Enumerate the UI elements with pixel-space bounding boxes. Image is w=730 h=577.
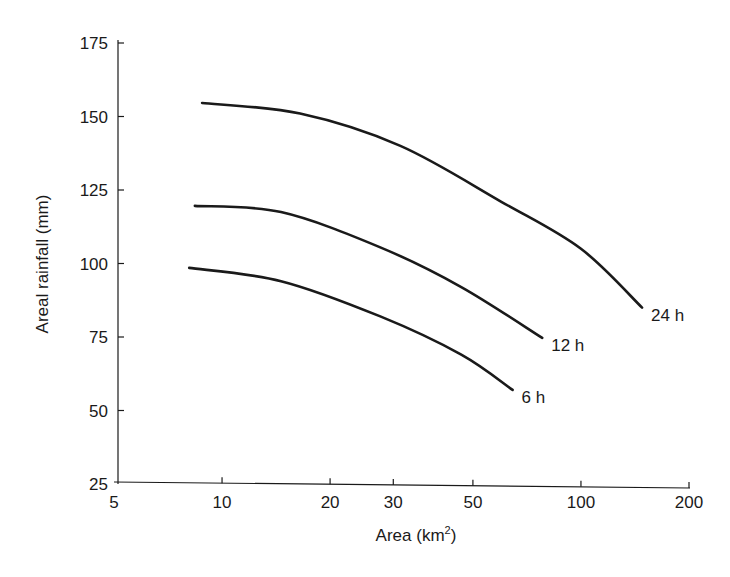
curve-6h (189, 268, 512, 390)
x-tick-label: 10 (213, 493, 232, 512)
x-tick-label: 5 (109, 493, 118, 512)
chart-canvas: 255075100125150175 510203050100200 24 h1… (0, 0, 730, 577)
y-axis-title: Areal rainfall (mm) (33, 195, 52, 334)
x-axis-title-close: ) (451, 526, 457, 545)
y-tick-label: 175 (80, 34, 108, 53)
y-tick-label: 75 (89, 328, 108, 347)
y-tick-label: 100 (80, 255, 108, 274)
x-tick-label: 100 (567, 493, 595, 512)
x-axis-title: Area (km2) (376, 524, 457, 545)
x-axis-title-base: Area (km (376, 526, 445, 545)
y-ticks: 255075100125150175 (80, 34, 124, 494)
series-label-24h: 24 h (651, 306, 684, 325)
curve-24h (202, 103, 642, 308)
x-axis-line (114, 482, 690, 488)
curve-12h (195, 206, 542, 338)
series-label-12h: 12 h (551, 336, 584, 355)
y-tick-label: 125 (80, 181, 108, 200)
x-tick-label: 200 (675, 493, 703, 512)
y-tick-label: 25 (89, 475, 108, 494)
x-tick-label: 50 (463, 493, 482, 512)
series-label-6h: 6 h (522, 388, 546, 407)
y-tick-label: 150 (80, 108, 108, 127)
axes (114, 40, 690, 488)
x-tick-label: 30 (384, 493, 403, 512)
x-tick-label: 20 (321, 493, 340, 512)
series-labels: 24 h12 h6 h (522, 306, 685, 407)
y-tick-label: 50 (89, 402, 108, 421)
